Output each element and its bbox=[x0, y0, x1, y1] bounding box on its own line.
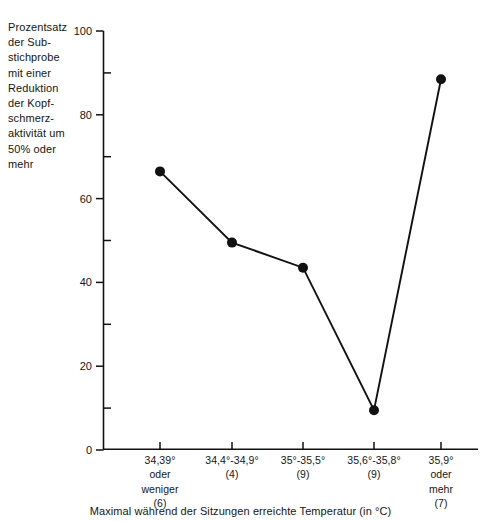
data-point-3 bbox=[369, 405, 379, 415]
series-line bbox=[160, 79, 441, 410]
x-axis-title: Maximal während der Sitzungen erreichte … bbox=[0, 505, 481, 517]
data-point-2 bbox=[298, 263, 308, 273]
y-tick-label-0: 0 bbox=[86, 444, 92, 456]
y-tick-label-40: 40 bbox=[80, 276, 92, 288]
chart-container: Prozentsatz der Sub- stichprobe mit eine… bbox=[0, 0, 481, 521]
y-major-ticks bbox=[96, 31, 104, 450]
y-tick-label-100: 100 bbox=[74, 25, 92, 37]
data-point-1 bbox=[227, 238, 237, 248]
y-tick-label-80: 80 bbox=[80, 109, 92, 121]
y-minor-ticks bbox=[104, 73, 112, 408]
series-markers bbox=[155, 74, 446, 415]
y-tick-label-60: 60 bbox=[80, 193, 92, 205]
y-tick-label-20: 20 bbox=[80, 360, 92, 372]
data-point-0 bbox=[155, 166, 165, 176]
data-point-4 bbox=[436, 74, 446, 84]
x-category-label-4: 35,9° oder mehr (7) bbox=[404, 453, 478, 511]
plot-area: 100 80 60 40 20 0 bbox=[0, 0, 481, 521]
x-axis-ticks bbox=[160, 442, 441, 449]
